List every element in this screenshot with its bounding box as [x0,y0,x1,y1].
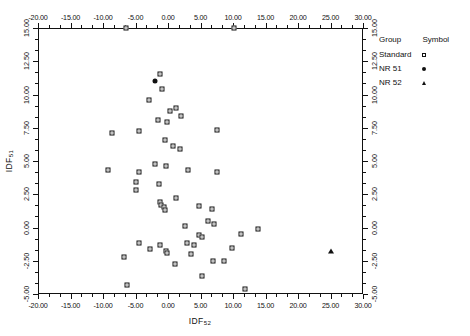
data-point-standard [133,180,138,185]
y-minor-tick [363,272,366,273]
x-minor-tick [276,25,277,28]
data-point-standard [182,224,187,229]
y-minor-tick [363,139,366,140]
y-minor-tick [35,239,38,240]
data-point-standard [210,206,215,211]
x-tick-label-bottom: -5.00 [128,301,143,310]
y-major-tick [33,228,38,229]
y-minor-tick [363,239,366,240]
data-point-standard [158,242,163,247]
y-tick-label-left: 7.50 [22,121,31,135]
x-major-tick [233,294,234,299]
y-minor-tick [35,250,38,251]
x-minor-tick [92,25,93,28]
y-major-tick [363,194,368,195]
data-point-standard [146,98,151,103]
x-minor-tick [276,294,277,297]
y-tick-label-left: 0.00 [22,221,31,235]
x-minor-tick [309,25,310,28]
x-minor-tick [125,294,126,297]
y-major-tick [33,194,38,195]
x-tick-label-top: 25.00 [322,13,339,22]
x-minor-tick [60,294,61,297]
x-tick-label-top: 20.00 [290,13,307,22]
data-point-standard [106,168,111,173]
y-axis-title-base: IDF [4,157,14,172]
data-point-standard [156,118,161,123]
data-point-standard [163,138,168,143]
x-major-tick [298,294,299,299]
data-point-standard [137,169,142,174]
y-minor-tick [35,216,38,217]
y-minor-tick [35,272,38,273]
x-tick-label-top: -15.00 [61,13,80,22]
x-minor-tick [255,25,256,28]
x-minor-tick [49,294,50,297]
y-tick-label-right: 2.50 [370,187,379,201]
y-minor-tick [363,250,366,251]
x-minor-tick [309,294,310,297]
x-minor-tick [320,294,321,297]
y-major-tick [33,294,38,295]
x-minor-tick [244,294,245,297]
y-axis-title-subscript: 51 [7,150,14,158]
x-major-tick [168,294,169,299]
x-major-tick [71,294,72,299]
data-point-standard [121,255,126,260]
data-point-standard [242,287,247,292]
x-minor-tick [146,294,147,297]
x-minor-tick [157,294,158,297]
x-minor-tick [255,294,256,297]
x-tick-label-bottom: 10.00 [225,301,242,310]
x-major-tick [331,294,332,299]
data-point-standard [164,119,169,124]
data-point-standard [164,164,169,169]
data-point-standard [165,250,170,255]
data-point-standard [230,246,235,251]
x-tick-label-top: 10.00 [225,13,242,22]
data-point-standard [136,241,141,246]
y-tick-label-left: 12.50 [22,52,31,70]
x-minor-tick [320,25,321,28]
data-point-standard [137,129,142,134]
x-major-tick [103,294,104,299]
scatter-plot-figure: -20.00-20.00-15.00-15.00-10.00-10.00-5.0… [0,0,470,336]
y-major-tick [363,61,368,62]
data-point-standard [184,241,189,246]
y-minor-tick [363,205,366,206]
legend-symbol-cell [411,51,449,65]
x-axis-title: IDF52 [0,316,470,326]
legend-row: Standard [379,51,449,65]
y-tick-label-left: -2.50 [22,253,31,269]
x-minor-tick [222,25,223,28]
legend-header-row: Group Symbol [379,36,449,51]
y-major-tick [363,228,368,229]
data-point-standard [158,71,163,76]
y-minor-tick [35,106,38,107]
y-minor-tick [35,39,38,40]
x-major-tick [38,294,39,299]
y-major-tick [33,28,38,29]
x-tick-label-top: 5.00 [194,13,207,22]
x-minor-tick [352,25,353,28]
x-axis-title-subscript: 52 [204,319,212,326]
x-tick-label-bottom: 20.00 [290,301,307,310]
x-tick-label-bottom: 30.00 [355,301,372,310]
data-point-standard [133,187,138,192]
y-tick-label-left: 5.00 [22,154,31,168]
x-major-tick [201,23,202,28]
legend-label: NR 52 [379,79,411,93]
x-tick-label-top: 15.00 [257,13,274,22]
y-tick-label-right: 15.00 [370,19,379,37]
data-point-standard [179,114,184,119]
x-major-tick [266,294,267,299]
data-point-standard [148,247,153,252]
filled-circle-icon [422,67,426,71]
x-axis-title-base: IDF [189,316,204,326]
y-minor-tick [363,50,366,51]
x-tick-label-bottom: 0.00 [161,301,174,310]
x-major-tick [331,23,332,28]
data-point-standard [174,196,179,201]
y-major-tick [363,95,368,96]
data-point-standard [172,262,177,267]
